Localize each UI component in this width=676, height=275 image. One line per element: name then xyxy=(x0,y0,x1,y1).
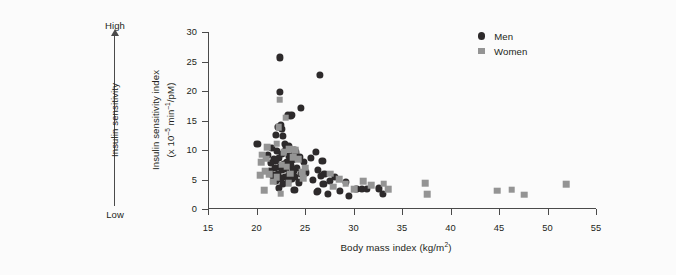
y-tick-mark xyxy=(202,91,208,92)
x-tick-mark xyxy=(208,209,209,215)
data-point-women xyxy=(257,172,264,179)
x-tick-mark xyxy=(402,209,403,215)
data-point-women xyxy=(300,175,307,182)
data-point-women xyxy=(422,180,429,187)
y-tick-label: 20 xyxy=(157,86,197,96)
data-point-women xyxy=(327,170,334,177)
data-point-women xyxy=(330,183,337,190)
data-point-men xyxy=(345,192,352,199)
data-point-men xyxy=(309,176,316,183)
x-tick-label: 15 xyxy=(194,223,222,233)
x-tick-label: 55 xyxy=(582,223,610,233)
y-tick-label: 15 xyxy=(157,116,197,126)
data-point-women xyxy=(287,170,294,177)
data-point-men xyxy=(291,187,298,194)
x-title-pre: Body mass index (kg/m xyxy=(340,242,444,253)
data-point-women xyxy=(270,179,277,186)
data-point-women xyxy=(280,149,287,156)
data-point-women xyxy=(276,124,283,131)
x-tick-mark xyxy=(451,209,452,215)
y-title-sup2: –1 xyxy=(164,102,171,109)
data-point-men xyxy=(298,105,305,112)
data-point-men xyxy=(276,88,283,95)
y-tick-mark xyxy=(202,121,208,122)
data-point-women xyxy=(563,181,570,188)
data-point-women xyxy=(424,191,431,198)
y-tick-label: 25 xyxy=(157,57,197,67)
data-point-women xyxy=(351,186,358,193)
data-point-women xyxy=(360,178,367,185)
data-point-men xyxy=(307,155,314,162)
y-title-sup1: –5 xyxy=(164,128,171,135)
data-point-women xyxy=(276,97,283,104)
data-point-men xyxy=(336,188,343,195)
scatter-plot-figure: High Insulin sensitivity Low Insulin sen… xyxy=(0,0,676,275)
data-point-men xyxy=(316,71,323,78)
x-tick-mark xyxy=(596,209,597,215)
annotation-low-label: Low xyxy=(86,209,144,220)
data-point-men xyxy=(314,188,321,195)
data-point-men xyxy=(254,140,261,147)
x-title-post: ) xyxy=(448,242,451,253)
x-tick-mark xyxy=(305,209,306,215)
y-tick-label: 0 xyxy=(157,204,197,214)
data-point-women xyxy=(274,140,281,147)
x-tick-label: 35 xyxy=(388,223,416,233)
data-point-men xyxy=(317,172,324,179)
legend-item-men: Men xyxy=(478,29,528,43)
x-tick-mark xyxy=(548,209,549,215)
x-tick-mark xyxy=(354,209,355,215)
insulin-sensitivity-annotation: High Insulin sensitivity Low xyxy=(86,20,144,220)
data-point-women xyxy=(264,144,271,151)
x-tick-label: 40 xyxy=(437,223,465,233)
legend-marker-circle-icon xyxy=(478,32,485,39)
data-point-women xyxy=(508,186,515,193)
y-tick-label: 5 xyxy=(157,175,197,185)
y-tick-label: 30 xyxy=(157,27,197,37)
plot-area: 051015202530 152025303540455055 xyxy=(196,28,596,213)
annotation-axis-title: Insulin sensitivity xyxy=(109,83,120,157)
data-point-men xyxy=(319,157,326,164)
legend-label-women: Women xyxy=(494,46,528,57)
y-tick-label: 10 xyxy=(157,145,197,155)
data-point-women xyxy=(292,147,299,154)
data-point-women xyxy=(266,171,273,178)
y-tick-mark xyxy=(202,62,208,63)
data-point-men xyxy=(312,148,319,155)
data-point-women xyxy=(295,156,302,163)
y-tick-mark xyxy=(202,32,208,33)
y-axis-line xyxy=(208,32,209,209)
y-tick-mark xyxy=(202,150,208,151)
legend: Men Women xyxy=(478,29,528,59)
data-point-women xyxy=(385,186,392,193)
x-tick-label: 30 xyxy=(340,223,368,233)
data-point-women xyxy=(258,159,265,166)
data-point-women xyxy=(277,190,284,197)
x-axis-title: Body mass index (kg/m2) xyxy=(196,241,596,253)
data-point-women xyxy=(282,114,289,121)
data-point-women xyxy=(283,163,290,170)
legend-item-women: Women xyxy=(478,44,528,58)
x-tick-label: 50 xyxy=(534,223,562,233)
data-point-women xyxy=(336,176,343,183)
data-point-men xyxy=(325,191,332,198)
data-point-women xyxy=(368,182,375,189)
y-tick-mark xyxy=(202,180,208,181)
data-point-women xyxy=(494,187,501,194)
legend-label-men: Men xyxy=(494,31,513,42)
data-point-women xyxy=(261,187,268,194)
data-point-women xyxy=(285,180,292,187)
x-tick-mark xyxy=(499,209,500,215)
x-tick-label: 25 xyxy=(291,223,319,233)
data-point-women xyxy=(342,180,349,187)
x-tick-label: 20 xyxy=(243,223,271,233)
x-tick-mark xyxy=(257,209,258,215)
data-point-men xyxy=(276,54,283,61)
data-point-women xyxy=(521,192,528,199)
data-point-men xyxy=(279,132,286,139)
legend-marker-square-icon xyxy=(478,48,485,55)
x-tick-label: 45 xyxy=(485,223,513,233)
